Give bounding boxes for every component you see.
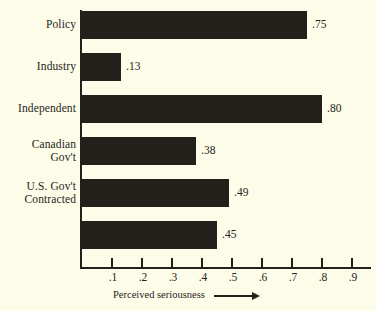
bar-chart: Policy .75 Industry .13 Independent .80 … xyxy=(0,0,376,311)
x-tick-2 xyxy=(171,258,173,267)
x-axis-line xyxy=(80,267,371,269)
x-tick-label-0: .1 xyxy=(101,271,125,284)
x-tick-5 xyxy=(261,258,263,267)
y-axis-line xyxy=(80,10,82,269)
bar-5 xyxy=(82,221,217,249)
x-tick-1 xyxy=(141,258,143,267)
bar-2 xyxy=(82,95,322,123)
x-tick-4 xyxy=(231,258,233,267)
x-tick-label-7: .8 xyxy=(311,271,335,284)
x-axis-label-text: Perceived seriousness xyxy=(113,289,205,300)
x-tick-0 xyxy=(111,258,113,267)
right-arrow-icon xyxy=(214,291,260,300)
x-tick-label-3: .4 xyxy=(191,271,215,284)
bar-value-label-3: .38 xyxy=(201,144,215,156)
x-tick-6 xyxy=(291,258,293,267)
bar-value-label-4: .49 xyxy=(234,186,248,198)
bar-category-label-3: Canadian Gov't xyxy=(0,138,76,163)
bar-value-label-0: .75 xyxy=(312,18,326,30)
table-row: Canadian Gov't .38 xyxy=(0,137,376,165)
bar-3 xyxy=(82,137,196,165)
bar-value-label-1: .13 xyxy=(126,60,140,72)
x-tick-label-1: .2 xyxy=(131,271,155,284)
x-tick-label-5: .6 xyxy=(251,271,275,284)
bar-4 xyxy=(82,179,229,207)
bar-category-label-1: Industry xyxy=(0,60,76,73)
x-tick-8 xyxy=(351,258,353,267)
x-tick-label-4: .5 xyxy=(221,271,245,284)
x-tick-label-8: .9 xyxy=(341,271,365,284)
x-tick-label-2: .3 xyxy=(161,271,185,284)
bar-category-label-2: Independent xyxy=(0,102,76,115)
table-row: Policy .75 xyxy=(0,11,376,39)
x-tick-7 xyxy=(321,258,323,267)
table-row: Independent .80 xyxy=(0,95,376,123)
bar-1 xyxy=(82,53,121,81)
bar-category-label-0: Policy xyxy=(0,18,76,31)
table-row: Industry .13 xyxy=(0,53,376,81)
bar-category-label-4: U.S. Gov't Contracted xyxy=(0,180,76,205)
x-tick-label-6: .7 xyxy=(281,271,305,284)
x-axis-label: Perceived seriousness xyxy=(113,288,260,301)
bar-value-label-2: .80 xyxy=(327,102,341,114)
bar-0 xyxy=(82,11,307,39)
table-row: U.S. Gov't Contracted .49 xyxy=(0,179,376,207)
bar-value-label-5: .45 xyxy=(222,228,236,240)
x-tick-3 xyxy=(201,258,203,267)
table-row: .45 xyxy=(0,221,376,249)
